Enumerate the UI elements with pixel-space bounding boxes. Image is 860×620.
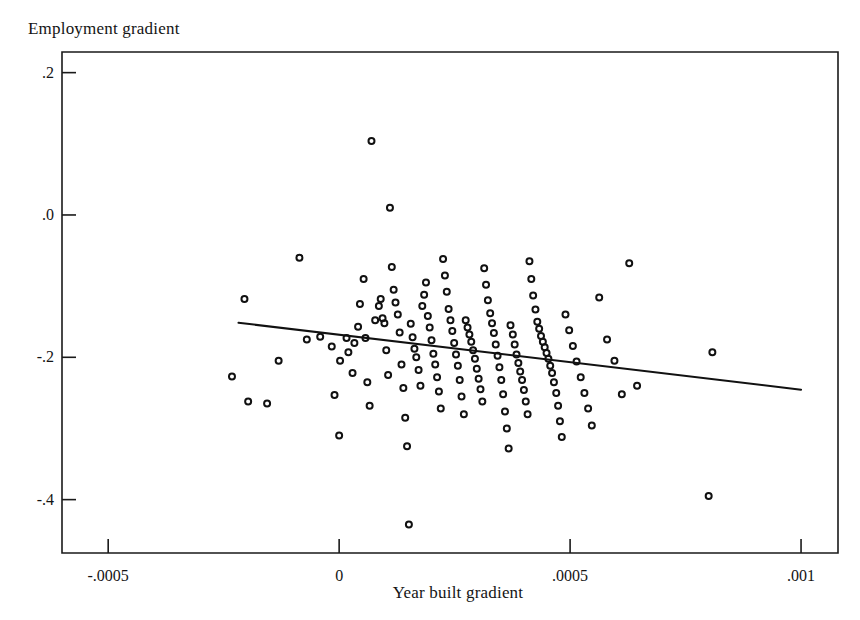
scatter-point [296, 255, 302, 261]
scatter-point [581, 390, 587, 396]
scatter-point [449, 328, 455, 334]
scatter-point [596, 295, 602, 301]
scatter-point [463, 317, 469, 323]
scatter-point [551, 379, 557, 385]
scatter-point [474, 366, 480, 372]
scatter-point [510, 332, 516, 338]
scatter-plot-figure: Employment gradient -.00050.0005.001.2.0… [0, 0, 860, 620]
scatter-point [481, 265, 487, 271]
scatter-point [517, 369, 523, 375]
scatter-point [427, 324, 433, 330]
scatter-point [432, 361, 438, 367]
scatter-point [421, 292, 427, 298]
scatter-point [406, 522, 412, 528]
scatter-point [604, 337, 610, 343]
scatter-point [498, 377, 504, 383]
scatter-point [368, 138, 374, 144]
scatter-point [376, 303, 382, 309]
scatter-point [446, 306, 452, 312]
scatter-point [397, 329, 403, 335]
scatter-point [304, 337, 310, 343]
scatter-point [416, 367, 422, 373]
scatter-point [357, 301, 363, 307]
scatter-point [466, 332, 472, 338]
scatter-point [264, 401, 270, 407]
scatter-point [532, 307, 538, 313]
scatter-point [589, 423, 595, 429]
scatter-point [442, 272, 448, 278]
y-axis-ticks [62, 73, 76, 500]
scatter-point [523, 398, 529, 404]
scatter-point [385, 372, 391, 378]
scatter-point [276, 358, 282, 364]
scatter-point [381, 320, 387, 326]
scatter-point [585, 406, 591, 412]
x-axis-title-wrap: Year built gradient [0, 583, 860, 603]
scatter-point [429, 337, 435, 343]
scatter-point [364, 379, 370, 385]
plot-frame-border [62, 52, 838, 553]
scatter-point [400, 385, 406, 391]
scatter-point [361, 276, 367, 282]
scatter-point [440, 256, 446, 262]
scatter-point [559, 434, 565, 440]
scatter-point [465, 324, 471, 330]
scatter-point [477, 386, 483, 392]
scatter-point [619, 391, 625, 397]
scatter-point [534, 319, 540, 325]
scatter-point [553, 390, 559, 396]
scatter-point [500, 391, 506, 397]
scatter-point [419, 303, 425, 309]
scatter-point [387, 205, 393, 211]
scatter-point [455, 363, 461, 369]
scatter-point [530, 292, 536, 298]
scatter-point [417, 383, 423, 389]
y-tick-label: .0 [20, 206, 54, 224]
scatter-point [444, 289, 450, 295]
scatter-point [634, 383, 640, 389]
scatter-point [468, 339, 474, 345]
scatter-point [491, 330, 497, 336]
scatter-point [496, 364, 502, 370]
scatter-point [472, 356, 478, 362]
scatter-point [502, 408, 508, 414]
scatter-point [508, 322, 514, 328]
scatter-point [487, 310, 493, 316]
scatter-point [485, 297, 491, 303]
scatter-point [434, 374, 440, 380]
scatter-point [241, 296, 247, 302]
plot-canvas [0, 0, 860, 620]
scatter-point [413, 354, 419, 360]
axis-frame [62, 52, 838, 553]
scatter-point [447, 317, 453, 323]
scatter-point [506, 445, 512, 451]
scatter-point [562, 312, 568, 318]
scatter-point [626, 260, 632, 266]
scatter-point [393, 300, 399, 306]
scatter-point [525, 411, 531, 417]
scatter-point [337, 358, 343, 364]
x-axis-ticks [108, 539, 801, 553]
x-axis-title: Year built gradient [393, 583, 524, 602]
scatter-point [479, 398, 485, 404]
scatter-point [566, 327, 572, 333]
y-axis-title: Employment gradient [28, 19, 180, 39]
scatter-point [512, 341, 518, 347]
scatter-point [372, 317, 378, 323]
scatter-point [549, 370, 555, 376]
scatter-point [351, 340, 357, 346]
scatter-point [411, 346, 417, 352]
scatter-point [555, 403, 561, 409]
scatter-point [519, 377, 525, 383]
scatter-point [709, 349, 715, 355]
y-tick-label: -.4 [20, 491, 54, 509]
scatter-point [526, 258, 532, 264]
scatter-point [430, 351, 436, 357]
scatter-point [408, 321, 414, 327]
scatter-point [436, 388, 442, 394]
scatter-point [378, 296, 384, 302]
scatter-point [706, 493, 712, 499]
scatter-point [451, 340, 457, 346]
scatter-point [383, 347, 389, 353]
scatter-point [423, 280, 429, 286]
